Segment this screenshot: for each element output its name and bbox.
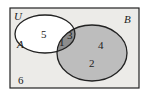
universe-label: U (14, 10, 23, 22)
region-a-only: 5 (41, 28, 47, 40)
venn-diagram: U A B 5 1 3 4 2 6 (0, 0, 145, 93)
region-outside: 6 (18, 74, 24, 86)
region-b-only-4: 4 (98, 39, 104, 51)
set-a-label: A (16, 38, 24, 50)
region-intersection-3: 3 (67, 29, 73, 41)
region-b-only-2: 2 (89, 57, 95, 69)
region-intersection-1: 1 (59, 36, 65, 48)
set-b-label: B (124, 13, 131, 25)
